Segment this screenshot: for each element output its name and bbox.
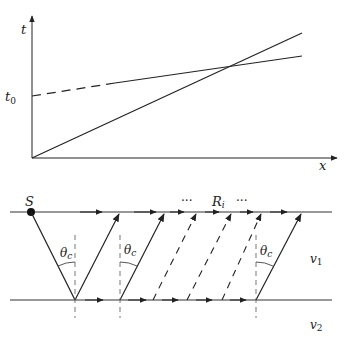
upgoing-ray-2 <box>120 214 164 300</box>
t-axis-label: t <box>21 22 27 37</box>
refracted-extrapolation-dashed <box>32 83 115 96</box>
source-label: S <box>25 194 34 209</box>
direct-wave-line <box>32 33 302 158</box>
receiver-label: Ri <box>211 194 225 210</box>
critical-angle-label-3: θc <box>260 244 272 259</box>
ray-path-diagram: S θc θc θc ··· Ri ··· v1 v2 <box>10 194 332 333</box>
upgoing-ray-dashed-3 <box>222 214 261 300</box>
travel-time-plot: t x t0 <box>5 16 337 173</box>
layer2-velocity-label: v2 <box>310 318 323 333</box>
critical-angle-label-1: θc <box>60 246 72 261</box>
x-axis-label: x <box>319 158 327 173</box>
layer1-velocity-label: v1 <box>310 252 323 267</box>
refraction-diagram: t x t0 S <box>0 0 344 340</box>
upgoing-ray-dashed-1 <box>153 214 196 300</box>
upgoing-ray-1 <box>75 214 119 300</box>
refracted-wave-line <box>115 56 302 83</box>
ellipsis-right: ··· <box>236 194 247 208</box>
critical-angle-label-2: θc <box>124 243 136 258</box>
ellipsis-left: ··· <box>181 194 192 208</box>
intercept-label: t0 <box>5 89 16 106</box>
upgoing-ray-dashed-2 <box>187 214 231 300</box>
angle-arcs <box>58 262 273 266</box>
